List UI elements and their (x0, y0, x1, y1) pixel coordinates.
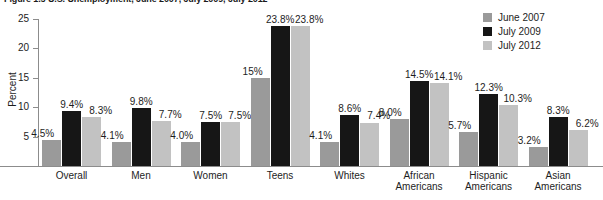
bar-value-label: 15% (243, 66, 263, 77)
bar (340, 115, 359, 166)
bar (360, 123, 379, 167)
bar (132, 108, 151, 166)
bar (82, 117, 101, 166)
bar (112, 142, 131, 166)
bar (479, 94, 498, 166)
bar-value-label: 8.3% (89, 105, 112, 116)
category-label-line: Overall (32, 170, 112, 181)
category-label: Overall (32, 170, 112, 181)
category-label: Whites (310, 170, 390, 181)
bar-value-label: 10.3% (504, 93, 532, 104)
bar (410, 81, 429, 166)
category-label-line: Asian (518, 170, 598, 181)
chart-figure: Figure 1.5 U.S. Unemployment, June 2007,… (0, 0, 603, 200)
bar (221, 122, 240, 166)
bar-value-label: 4.0% (170, 130, 193, 141)
category-label: Men (101, 170, 181, 181)
bar (529, 147, 548, 166)
bar-value-label: 7.5% (199, 110, 222, 121)
bar (569, 130, 588, 166)
category-label-line: Americans (449, 181, 529, 192)
bar-value-label: 8.6% (338, 103, 361, 114)
category-label-line: Men (101, 170, 181, 181)
bar (251, 78, 270, 166)
bar (390, 119, 409, 166)
bar-value-label: 8.0% (379, 107, 402, 118)
bar (291, 26, 310, 166)
plot-area: Percent 510152025 4.5%9.4%8.3%4.1%9.8%7.… (0, 0, 603, 200)
bar-value-label: 12.3% (475, 82, 503, 93)
category-label: Teens (240, 170, 320, 181)
bar (42, 140, 61, 166)
bar-value-label: 8.3% (547, 105, 570, 116)
bar-value-label: 7.5% (228, 110, 251, 121)
bar-value-label: 3.2% (518, 135, 541, 146)
category-label-line: Americans (379, 181, 459, 192)
bar (549, 117, 568, 166)
bar-value-label: 4.1% (309, 130, 332, 141)
bar (152, 121, 171, 166)
bar (271, 26, 290, 166)
category-label-line: Whites (310, 170, 390, 181)
category-label: AsianAmericans (518, 170, 598, 192)
bar (201, 122, 220, 166)
bar-value-label: 7.7% (159, 109, 182, 120)
bar (459, 132, 478, 166)
bar-value-label: 23.8% (266, 14, 294, 25)
bar-value-label: 6.2% (576, 118, 599, 129)
category-label-line: Women (171, 170, 251, 181)
bar-value-label: 9.8% (130, 96, 153, 107)
bar-value-label: 23.8% (295, 14, 323, 25)
bar (499, 105, 518, 166)
category-label-line: African (379, 170, 459, 181)
category-label-line: Teens (240, 170, 320, 181)
bar-value-label: 4.1% (101, 130, 124, 141)
bar-value-label: 14.1% (434, 71, 462, 82)
bar-value-label: 9.4% (60, 99, 83, 110)
bar (430, 83, 449, 166)
category-label: Women (171, 170, 251, 181)
category-label: HispanicAmericans (449, 170, 529, 192)
category-label: AfricanAmericans (379, 170, 459, 192)
category-label-line: Hispanic (449, 170, 529, 181)
bar (181, 142, 200, 166)
bar-value-label: 14.5% (405, 69, 433, 80)
bar-value-label: 5.7% (448, 120, 471, 131)
bar-value-label: 4.5% (31, 128, 54, 139)
category-label-line: Americans (518, 181, 598, 192)
bar (320, 142, 339, 166)
bar (62, 111, 81, 166)
